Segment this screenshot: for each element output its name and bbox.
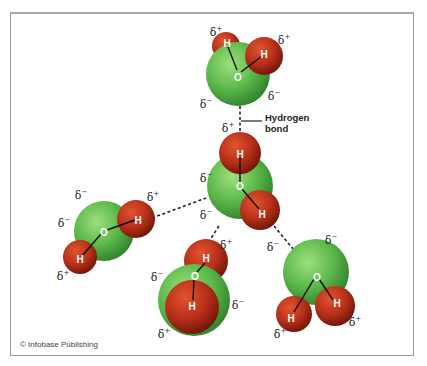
svg-text:δ−: δ− — [58, 216, 71, 230]
svg-text:δ+: δ+ — [147, 190, 160, 204]
svg-text:H: H — [258, 209, 265, 220]
copyright-credit: © Infobase Publishing — [20, 340, 98, 349]
svg-text:H: H — [134, 215, 141, 226]
svg-text:δ−: δ− — [267, 240, 280, 254]
hydrogen-bond-label-line1: Hydrogen — [265, 112, 309, 123]
svg-text:δ−: δ− — [200, 208, 213, 222]
svg-text:δ+: δ+ — [274, 327, 287, 341]
svg-text:H: H — [260, 49, 267, 60]
svg-text:H: H — [333, 298, 340, 309]
water-hydrogen-bond-diagram: H H O δ+ δ+ δ− δ− H O H δ+ δ− δ− O H H δ… — [0, 0, 427, 366]
svg-text:H: H — [236, 149, 243, 160]
svg-text:δ+: δ+ — [278, 33, 291, 47]
svg-text:δ−: δ− — [200, 97, 213, 111]
svg-text:δ+: δ+ — [220, 238, 233, 252]
svg-text:H: H — [76, 254, 83, 265]
molecule-right: O H H δ− δ− δ+ δ+ — [267, 233, 362, 341]
molecule-bottom: H O H δ− δ+ δ− δ+ — [151, 238, 245, 341]
svg-text:O: O — [234, 72, 242, 83]
svg-text:H: H — [188, 301, 195, 312]
svg-text:δ−: δ− — [151, 270, 164, 284]
molecule-center: H O H δ+ δ− δ− — [200, 121, 280, 230]
svg-text:O: O — [313, 272, 321, 283]
hydrogen-bond-label-line2: bond — [265, 123, 309, 134]
svg-text:δ−: δ− — [75, 188, 88, 202]
svg-text:H: H — [223, 38, 230, 49]
svg-text:δ+: δ+ — [349, 315, 362, 329]
svg-text:O: O — [100, 227, 108, 238]
svg-text:O: O — [236, 181, 244, 192]
hbond-left-center — [152, 198, 206, 218]
svg-text:δ+: δ+ — [158, 327, 171, 341]
hydrogen-bond-label: Hydrogen bond — [265, 112, 309, 134]
svg-text:δ−: δ− — [268, 89, 281, 103]
svg-text:H: H — [287, 313, 294, 324]
svg-text:H: H — [202, 253, 209, 264]
svg-text:δ+: δ+ — [57, 269, 70, 283]
svg-text:O: O — [191, 271, 199, 282]
svg-text:δ−: δ− — [232, 298, 245, 312]
svg-text:δ−: δ− — [325, 233, 338, 247]
molecule-top: H H O δ+ δ+ δ− δ− — [200, 25, 291, 111]
svg-text:δ+: δ+ — [222, 121, 235, 135]
molecule-left: O H H δ− δ+ δ− δ+ — [57, 188, 160, 283]
